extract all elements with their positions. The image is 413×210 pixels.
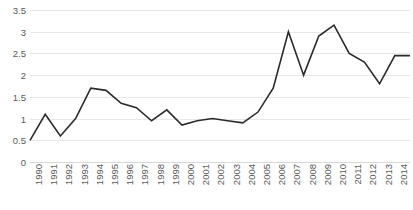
y-tick-label: 3 [0,27,26,36]
x-tick-label: 1992 [64,164,73,185]
x-tick-label: 2013 [384,164,393,185]
x-tick-label: 2003 [232,164,241,185]
x-tick-label: 2012 [368,164,377,185]
x-tick-label: 2014 [399,164,408,185]
x-tick-label: 1991 [49,164,58,185]
x-tick-label: 2006 [277,164,286,185]
x-tick-label: 1998 [156,164,165,185]
y-tick-label: 2.5 [0,49,26,58]
x-tick-label: 2002 [216,164,225,185]
x-tick-label: 2010 [338,164,347,185]
y-tick-label: 3.5 [0,6,26,15]
x-tick-label: 2009 [323,164,332,185]
x-tick-label: 1995 [110,164,119,185]
x-tick-label: 2004 [247,164,256,185]
x-tick-label: 2011 [353,164,362,184]
x-tick-label: 2005 [262,164,271,185]
x-tick-label: 1999 [171,164,180,185]
x-tick-label: 2001 [201,164,210,185]
y-tick-label: 1.5 [0,92,26,101]
x-tick-label: 2007 [292,164,301,185]
x-axis-line [30,162,410,163]
x-tick-label: 1994 [95,164,104,185]
x-tick-label: 1997 [140,164,149,185]
y-tick-label: 0.5 [0,136,26,145]
x-tick-label: 2008 [308,164,317,185]
series-line [30,10,410,162]
y-axis-labels: 00.511.522.533.5 [0,10,26,162]
x-tick-label: 1993 [80,164,89,185]
x-tick-label: 1990 [34,164,43,185]
plot-area [30,10,410,162]
line-chart: 00.511.522.533.5 19901991199219931994199… [0,0,413,210]
y-tick-label: 2 [0,71,26,80]
y-tick-label: 1 [0,114,26,123]
x-axis-labels: 1990199119921993199419951996199719981999… [30,164,410,208]
x-tick-label: 2000 [186,164,195,185]
y-tick-label: 0 [0,158,26,167]
x-tick-label: 1996 [125,164,134,185]
